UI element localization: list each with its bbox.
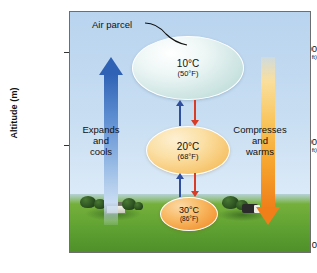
rising-arrow-lower-icon bbox=[175, 173, 184, 197]
parcel-bottom-celsius: 30°C bbox=[179, 205, 199, 215]
expands-line-1: Expands bbox=[70, 124, 132, 135]
sinking-arrow-lower-icon bbox=[190, 173, 199, 197]
parcel-top-celsius: 10°C bbox=[177, 58, 199, 69]
sinking-arrow-upper-icon bbox=[190, 100, 199, 126]
rising-arrow-upper-icon bbox=[175, 100, 184, 126]
parcel-top-fahrenheit: (50°F) bbox=[178, 69, 199, 78]
arrow-up-head-icon bbox=[99, 57, 123, 75]
arrow-down-head-icon bbox=[256, 207, 280, 225]
compresses-line-3: warms bbox=[222, 146, 298, 157]
exchange-arrows-upper bbox=[170, 100, 204, 126]
parcel-bottom-fahrenheit: (86°F) bbox=[180, 215, 198, 223]
air-parcel-callout-label: Air parcel bbox=[92, 19, 132, 30]
compresses-line-1: Compresses bbox=[222, 124, 298, 135]
expands-line-3: cools bbox=[70, 146, 132, 157]
tree-left-d bbox=[134, 202, 143, 210]
air-parcel-middle: 20°C (68°F) bbox=[146, 126, 230, 175]
parcel-middle-celsius: 20°C bbox=[177, 141, 199, 152]
compresses-warms-label: Compresses and warms bbox=[222, 124, 298, 157]
air-parcel-diagram: Altitude (m) 2,000 (6,400 ft) 1,000 (3,2… bbox=[0, 0, 317, 273]
plot-area: Expands and cools Compresses and warms 1… bbox=[69, 11, 311, 253]
expands-cools-label: Expands and cools bbox=[70, 124, 132, 157]
parcel-middle-fahrenheit: (68°F) bbox=[178, 152, 199, 161]
callout-leader-line bbox=[144, 20, 188, 46]
y-axis-title: Altitude (m) bbox=[9, 73, 19, 153]
expands-line-2: and bbox=[70, 135, 132, 146]
compresses-line-2: and bbox=[222, 135, 298, 146]
air-parcel-bottom: 30°C (86°F) bbox=[160, 197, 218, 231]
exchange-arrows-lower bbox=[170, 173, 204, 197]
